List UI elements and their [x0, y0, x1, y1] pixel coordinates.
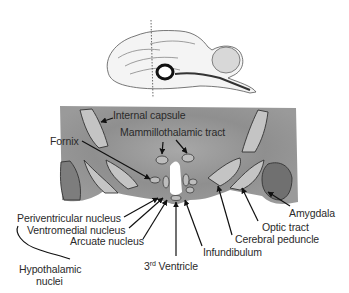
third-ventricle-word: Ventricle	[156, 260, 198, 272]
fornix-structure	[150, 177, 160, 183]
label-cerebral-peduncle: Cerebral peduncle	[235, 234, 319, 245]
third-ventricle-ordinal: rd	[150, 260, 156, 267]
ventromedial-nucleus-left	[163, 176, 169, 188]
label-hypothalamic-line2: nuclei	[36, 276, 63, 287]
label-fornix: Fornix	[50, 136, 79, 147]
arrow-ventromedial	[129, 198, 163, 228]
ventromedial-nucleus-right	[183, 174, 189, 186]
arrow-infundibulum	[185, 200, 202, 246]
label-hypothalamic-line1: Hypothalamic	[19, 264, 81, 275]
label-mammillothalamic-tract: Mammillothalamic tract	[120, 127, 225, 138]
label-internal-capsule: Internal capsule	[113, 110, 186, 121]
arrow-cerebral-peduncle	[218, 186, 232, 235]
label-infundibulum: Infundibulum	[203, 247, 262, 258]
mammillothalamic-tract-left	[156, 156, 168, 164]
sagittal-brain	[107, 20, 256, 98]
label-third-ventricle: 3rd Ventricle	[144, 261, 198, 272]
label-periventricular-nucleus: Periventricular nucleus	[17, 213, 121, 224]
thalamus-ring	[157, 65, 173, 79]
nucleus-right-a	[189, 179, 197, 185]
label-ventromedial-nucleus: Ventromedial nucleus	[27, 225, 125, 236]
label-amygdala: Amygdala	[289, 208, 335, 219]
third-ventricle-number: 3	[144, 260, 150, 272]
nucleus-right-b	[186, 187, 194, 193]
arcuate-nucleus	[171, 196, 181, 201]
cerebellum	[212, 47, 240, 73]
mammillothalamic-tract-right	[182, 154, 194, 162]
label-arcuate-nucleus: Arcuate nucleus	[70, 236, 144, 247]
label-optic-tract: Optic tract	[262, 222, 309, 233]
